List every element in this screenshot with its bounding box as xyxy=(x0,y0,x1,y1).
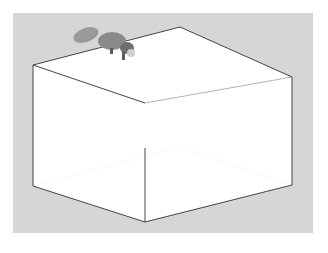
surface-figure xyxy=(0,0,328,253)
